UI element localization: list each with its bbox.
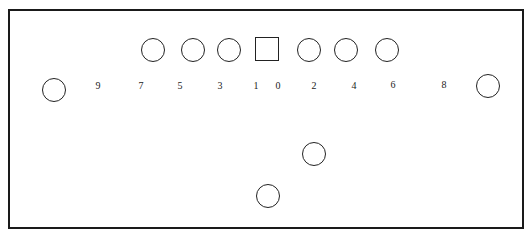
hole-number: 2 <box>312 81 317 91</box>
lineman-circle <box>334 38 358 62</box>
back-circle <box>256 184 280 208</box>
hole-number: 6 <box>391 80 396 90</box>
hole-number: 5 <box>178 81 183 91</box>
lineman-circle <box>181 38 205 62</box>
receiver-circle <box>476 74 500 98</box>
hole-number: 0 <box>276 81 281 91</box>
hole-number: 8 <box>442 80 447 90</box>
hole-number: 1 <box>254 81 259 91</box>
hole-number: 9 <box>96 81 101 91</box>
hole-number: 7 <box>139 81 144 91</box>
receiver-circle <box>42 78 66 102</box>
hole-number: 4 <box>352 81 357 91</box>
lineman-circle <box>217 38 241 62</box>
center-square <box>255 37 279 61</box>
hole-number: 3 <box>218 81 223 91</box>
lineman-circle <box>375 38 399 62</box>
lineman-circle <box>297 38 321 62</box>
lineman-circle <box>141 38 165 62</box>
back-circle <box>302 142 326 166</box>
